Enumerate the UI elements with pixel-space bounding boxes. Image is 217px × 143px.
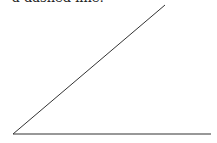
diagonal-ray — [13, 5, 165, 134]
angle-diagram — [0, 0, 217, 143]
